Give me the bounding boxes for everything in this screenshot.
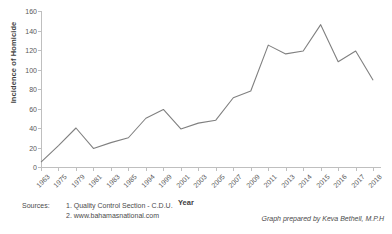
y-tick-label: 120 [25, 47, 37, 54]
x-tick-label: 1981 [87, 173, 103, 189]
x-tick-mark [181, 168, 182, 171]
x-tick-mark [303, 168, 304, 171]
x-tick-label: 1994 [140, 173, 156, 189]
series-polyline-0 [41, 25, 373, 162]
x-tick-mark [216, 168, 217, 171]
y-tick-label: 20 [29, 144, 37, 151]
x-axis-line [41, 167, 381, 168]
y-tick-label: 0 [33, 164, 37, 171]
x-tick-label: 1975 [52, 173, 68, 189]
x-tick-label: 2017 [350, 173, 366, 189]
x-tick-mark [146, 168, 147, 171]
x-tick-label: 2007 [227, 173, 243, 189]
x-tick-label: 1999 [157, 173, 173, 189]
x-tick-mark [338, 168, 339, 171]
series-line-1 [41, 11, 381, 167]
x-tick-label: 2001 [175, 173, 191, 189]
x-tick-mark [58, 168, 59, 171]
x-tick-label: 2003 [192, 173, 208, 189]
x-tick-label: 2018 [367, 173, 383, 189]
y-tick-label: 80 [29, 86, 37, 93]
x-tick-mark [163, 168, 164, 171]
x-tick-mark [233, 168, 234, 171]
x-tick-mark [251, 168, 252, 171]
x-tick-mark [93, 168, 94, 171]
y-tick-label: 60 [29, 105, 37, 112]
source-item-1: 1. Quality Control Section - C.D.U. [66, 202, 173, 209]
x-tick-mark [268, 168, 269, 171]
x-tick-mark [198, 168, 199, 171]
x-tick-label: 1985 [122, 173, 138, 189]
source-row-1: Sources: 1. Quality Control Section - C.… [22, 202, 173, 209]
sources-label: Sources: [22, 202, 66, 209]
graph-credit: Graph prepared by Keva Bethell, M.P.H [262, 215, 384, 222]
homicide-incidence-chart: Incidence of Homicide 020406080100120140… [0, 0, 392, 234]
x-tick-label: 1963 [35, 173, 51, 189]
x-tick-label: 2013 [280, 173, 296, 189]
source-item-2: 2. www.bahamasnational.com [66, 212, 159, 219]
x-tick-mark [41, 168, 42, 171]
x-axis-title: Year [178, 198, 194, 207]
x-tick-label: 1979 [70, 173, 86, 189]
x-tick-label: 1983 [105, 173, 121, 189]
x-tick-mark [356, 168, 357, 171]
source-row-2: 2. www.bahamasnational.com [22, 212, 173, 219]
y-tick-label: 160 [25, 8, 37, 15]
y-tick-label: 100 [25, 66, 37, 73]
x-tick-mark [76, 168, 77, 171]
x-tick-label: 2005 [210, 173, 226, 189]
x-tick-label: 2014 [297, 173, 313, 189]
sources-block: Sources: 1. Quality Control Section - C.… [22, 202, 173, 222]
y-axis-title: Incidence of Homicide [9, 3, 18, 123]
x-tick-mark [321, 168, 322, 171]
x-tick-label: 2016 [332, 173, 348, 189]
x-tick-label: 2011 [263, 173, 279, 189]
x-tick-mark [286, 168, 287, 171]
plot-area: 020406080100120140160 196319751979198119… [41, 11, 381, 167]
x-tick-label: 2015 [315, 173, 331, 189]
x-tick-mark [111, 168, 112, 171]
y-tick-label: 40 [29, 125, 37, 132]
x-tick-mark [373, 168, 374, 171]
y-tick-label: 140 [25, 27, 37, 34]
x-tick-label: 2009 [245, 173, 261, 189]
x-tick-mark [128, 168, 129, 171]
